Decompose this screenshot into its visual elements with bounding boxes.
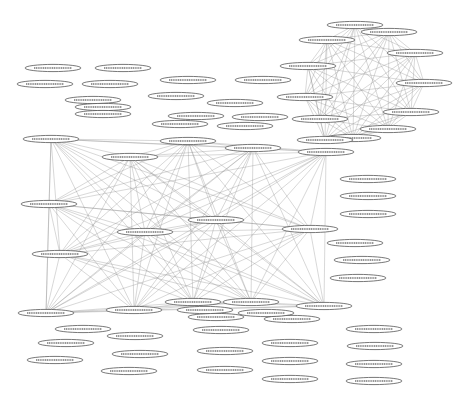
graph-node-mesh-center[interactable] xyxy=(165,298,221,305)
graph-edge xyxy=(353,25,355,138)
graph-node-mesh-center[interactable] xyxy=(23,135,79,142)
graph-node-isolated[interactable] xyxy=(25,64,81,71)
graph-edge xyxy=(49,204,60,254)
graph-node-isolated[interactable] xyxy=(346,360,402,367)
graph-node-isolated[interactable] xyxy=(346,377,402,384)
graph-node-isolated[interactable] xyxy=(346,325,402,332)
graph-edge xyxy=(216,220,251,302)
graph-node-mesh-center[interactable] xyxy=(298,148,354,155)
graph-edge xyxy=(415,53,424,83)
graph-edge xyxy=(308,66,353,138)
graph-node-isolated[interactable] xyxy=(148,92,204,99)
graph-node-isolated[interactable] xyxy=(65,96,121,103)
graph-edge xyxy=(46,254,60,313)
graph-node-isolated[interactable] xyxy=(160,76,216,83)
graph-edge xyxy=(310,229,324,306)
graph-node-clique-top-right[interactable] xyxy=(327,21,383,28)
graph-node-isolated[interactable] xyxy=(75,110,131,117)
graph-edge xyxy=(51,139,60,254)
graph-node-isolated[interactable] xyxy=(55,325,111,332)
graph-edge xyxy=(49,157,130,204)
graph-node-mesh-center[interactable] xyxy=(225,144,281,151)
graph-node-isolated[interactable] xyxy=(262,375,318,382)
graph-node-isolated[interactable] xyxy=(330,274,386,281)
graph-node-mesh-center[interactable] xyxy=(117,228,173,235)
graph-edge xyxy=(251,229,310,302)
graph-node-mesh-center[interactable] xyxy=(223,298,279,305)
graph-node-mesh-center[interactable] xyxy=(32,250,88,257)
graph-node-isolated[interactable] xyxy=(197,366,253,373)
graph-node-isolated[interactable] xyxy=(75,103,131,110)
graph-node-mesh-center[interactable] xyxy=(160,137,216,144)
network-graph xyxy=(0,0,474,395)
graph-edge xyxy=(130,157,145,232)
graph-node-mesh-center[interactable] xyxy=(282,225,338,232)
graph-node-isolated[interactable] xyxy=(347,342,403,349)
graph-edge xyxy=(46,204,49,313)
graph-node-clique-top-right[interactable] xyxy=(387,49,443,56)
graph-edge xyxy=(130,152,326,157)
graph-node-isolated[interactable] xyxy=(188,313,244,320)
graph-edge xyxy=(60,254,134,310)
graph-node-clique-top-right[interactable] xyxy=(297,136,353,143)
graph-node-isolated[interactable] xyxy=(101,367,157,374)
graph-node-isolated[interactable] xyxy=(340,210,396,217)
graph-node-clique-top-right[interactable] xyxy=(277,93,333,100)
graph-node-isolated[interactable] xyxy=(327,239,383,246)
graph-node-clique-top-right[interactable] xyxy=(360,125,416,132)
graph-node-mesh-center[interactable] xyxy=(106,306,162,313)
graph-node-mesh-center[interactable] xyxy=(296,302,352,309)
graph-edge xyxy=(46,232,145,313)
graph-node-isolated[interactable] xyxy=(238,309,294,316)
graph-node-isolated[interactable] xyxy=(112,350,168,357)
graph-node-isolated[interactable] xyxy=(232,113,288,120)
graph-node-isolated[interactable] xyxy=(168,112,224,119)
graph-edge xyxy=(305,66,308,97)
graph-node-clique-top-right[interactable] xyxy=(383,108,439,115)
graph-node-clique-top-right[interactable] xyxy=(396,79,452,86)
graph-edge xyxy=(411,83,424,112)
graph-edge xyxy=(310,152,326,229)
graph-node-isolated[interactable] xyxy=(217,122,273,129)
graph-node-isolated[interactable] xyxy=(193,326,249,333)
graph-node-clique-top-right[interactable] xyxy=(292,115,348,122)
graph-node-isolated[interactable] xyxy=(107,332,163,339)
graph-edge xyxy=(145,232,324,306)
graph-node-isolated[interactable] xyxy=(197,347,253,354)
graph-edge xyxy=(51,139,310,229)
graph-node-clique-top-right[interactable] xyxy=(299,36,355,43)
graph-edge xyxy=(46,152,326,313)
graph-node-mesh-center[interactable] xyxy=(18,309,74,316)
graph-node-clique-top-right[interactable] xyxy=(280,62,336,69)
graph-node-isolated[interactable] xyxy=(262,339,318,346)
graph-node-isolated[interactable] xyxy=(95,64,151,71)
graph-node-isolated[interactable] xyxy=(340,192,396,199)
graph-node-isolated[interactable] xyxy=(38,339,94,346)
graph-edge xyxy=(308,25,355,66)
graph-node-clique-top-right[interactable] xyxy=(361,28,417,35)
graph-node-isolated[interactable] xyxy=(340,175,396,182)
graph-edge xyxy=(60,148,253,254)
graph-node-isolated[interactable] xyxy=(27,356,83,363)
graph-edge xyxy=(389,32,411,112)
graph-node-isolated[interactable] xyxy=(235,76,291,83)
graph-node-mesh-center[interactable] xyxy=(21,200,77,207)
graph-node-isolated[interactable] xyxy=(177,306,233,313)
graph-node-isolated[interactable] xyxy=(262,357,318,364)
graph-edge xyxy=(325,40,327,140)
graph-node-isolated[interactable] xyxy=(82,80,138,87)
graph-node-isolated[interactable] xyxy=(152,120,208,127)
graph-node-mesh-center[interactable] xyxy=(102,153,158,160)
graph-edge xyxy=(320,40,327,119)
graph-edge xyxy=(51,139,324,306)
graph-edge xyxy=(134,232,145,310)
graph-node-isolated[interactable] xyxy=(17,80,73,87)
graph-node-isolated[interactable] xyxy=(334,256,390,263)
graph-edge xyxy=(325,32,389,140)
graph-node-mesh-center[interactable] xyxy=(188,216,244,223)
graph-edge xyxy=(60,229,310,254)
graph-edge xyxy=(51,139,216,220)
graph-node-isolated[interactable] xyxy=(207,99,263,106)
graph-edge xyxy=(145,232,251,302)
graph-edge xyxy=(353,32,389,138)
